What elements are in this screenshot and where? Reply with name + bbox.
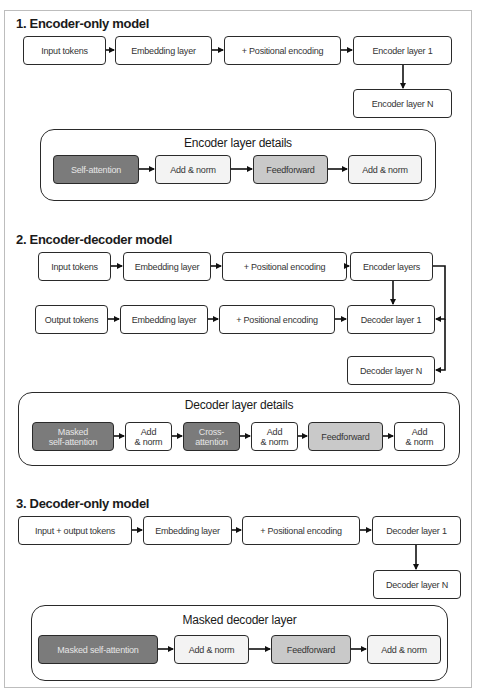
masked-detail-add-norm-1: Add & norm: [174, 635, 249, 664]
dec-detail-add-norm-2-line1: Add: [267, 427, 282, 437]
enc-detail-self-attention: Self-attention: [53, 155, 139, 184]
dec-detail-masked-self-attention-line2: self-attention: [49, 437, 98, 447]
dec-detail-add-norm-1: Add & norm: [125, 422, 172, 451]
enc-only-encoder-layer-n: Encoder layer N: [353, 89, 452, 118]
dec-only-decoder-layer-n: Decoder layer N: [373, 570, 461, 599]
masked-detail-self-attention: Masked self-attention: [38, 635, 158, 664]
dec-detail-masked-self-attention: Masked self-attention: [32, 422, 114, 451]
dec-detail-feedforward: Feedforward: [308, 422, 383, 451]
enc-dec-embedding-layer-dec: Embedding layer: [120, 305, 208, 334]
enc-dec-positional-encoding-dec: + Positional encoding: [219, 305, 335, 334]
masked-decoder-layer-title: Masked decoder layer: [32, 613, 447, 627]
encoder-layer-details-title: Encoder layer details: [41, 136, 435, 150]
enc-only-encoder-layer-1: Encoder layer 1: [353, 36, 452, 65]
dec-detail-add-norm-2: Add & norm: [251, 422, 298, 451]
dec-detail-add-norm-3-line1: Add: [412, 427, 427, 437]
dec-detail-add-norm-3: Add & norm: [394, 422, 445, 451]
masked-detail-add-norm-2: Add & norm: [367, 635, 441, 664]
section-title-encoder-only: 1. Encoder-only model: [16, 16, 149, 31]
dec-detail-add-norm-1-line2: & norm: [135, 437, 163, 447]
enc-dec-positional-encoding-enc: + Positional encoding: [222, 252, 347, 281]
dec-detail-cross-attention-line1: Cross-: [199, 427, 224, 437]
enc-only-embedding-layer: Embedding layer: [115, 36, 212, 65]
enc-only-input-tokens: Input tokens: [23, 36, 106, 65]
dec-detail-masked-self-attention-line1: Masked: [58, 427, 88, 437]
dec-detail-add-norm-3-line2: & norm: [406, 437, 434, 447]
section-title-decoder-only: 3. Decoder-only model: [16, 496, 149, 511]
dec-only-positional-encoding: + Positional encoding: [242, 516, 360, 545]
enc-detail-add-norm-1: Add & norm: [155, 155, 231, 184]
dec-detail-cross-attention: Cross- attention: [183, 422, 240, 451]
enc-dec-output-tokens: Output tokens: [35, 305, 108, 334]
dec-detail-add-norm-1-line1: Add: [141, 427, 156, 437]
enc-dec-decoder-layer-n: Decoder layer N: [347, 356, 435, 385]
section-title-encoder-decoder: 2. Encoder-decoder model: [16, 232, 172, 247]
enc-dec-embedding-layer-enc: Embedding layer: [123, 252, 211, 281]
enc-detail-feedforward: Feedforward: [253, 155, 328, 184]
enc-dec-encoder-layers: Encoder layers: [350, 252, 433, 281]
enc-only-positional-encoding: + Positional encoding: [224, 36, 341, 65]
enc-dec-input-tokens: Input tokens: [38, 252, 111, 281]
dec-detail-cross-attention-line2: attention: [195, 437, 228, 447]
masked-detail-feedforward: Feedforward: [271, 635, 351, 664]
dec-only-decoder-layer-1: Decoder layer 1: [372, 516, 461, 545]
dec-detail-add-norm-2-line2: & norm: [261, 437, 289, 447]
dec-only-input-output-tokens: Input + output tokens: [18, 516, 132, 545]
enc-detail-add-norm-2: Add & norm: [348, 155, 422, 184]
decoder-layer-details-title: Decoder layer details: [19, 398, 459, 412]
enc-dec-decoder-layer-1: Decoder layer 1: [347, 305, 435, 334]
dec-only-embedding-layer: Embedding layer: [143, 516, 232, 545]
